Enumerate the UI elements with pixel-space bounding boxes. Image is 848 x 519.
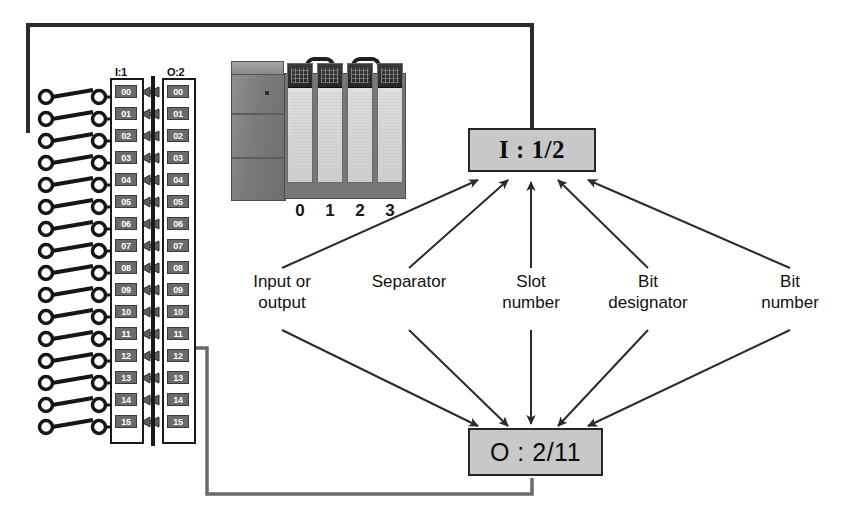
callout-arrows-to-output [282, 330, 790, 426]
plc-module-body [380, 91, 402, 181]
plc-module-led-array-icon [381, 68, 399, 83]
plc-module-led-array-icon [321, 68, 339, 83]
callout-bit-number: Bit number [740, 272, 840, 313]
plc-power-led-icon [265, 91, 269, 95]
input-terminal-02: 02 [115, 129, 137, 142]
plc-slot-number-2: 2 [347, 201, 373, 221]
callout-slot-number: Slot number [481, 272, 581, 313]
diagram-canvas: I:1 O:2 [0, 0, 848, 519]
input-terminal-00: 00 [115, 85, 137, 98]
output-terminal-01: 01 [167, 107, 189, 120]
plc-module-slot-2 [347, 63, 373, 183]
input-terminal-03: 03 [115, 151, 137, 164]
input-terminal-08: 08 [115, 261, 137, 274]
output-terminal-09: 09 [167, 283, 189, 296]
plc-slot-number-3: 3 [377, 201, 403, 221]
output-terminal-04: 04 [167, 173, 189, 186]
plc-slot-number-0: 0 [287, 201, 313, 221]
plc-module-slot-3 [377, 63, 403, 183]
input-terminal-06: 06 [115, 217, 137, 230]
output-strip-header: O:2 [165, 66, 186, 78]
output-terminal-15: 15 [167, 415, 189, 428]
input-address-text: I : 1/2 [499, 136, 565, 164]
output-terminal-02: 02 [167, 129, 189, 142]
plc-module-body [320, 91, 342, 181]
plc-module-body [350, 91, 372, 181]
input-terminal-07: 07 [115, 239, 137, 252]
output-terminal-03: 03 [167, 151, 189, 164]
plc-module-body [290, 91, 312, 181]
plc-power-supply-seam-upper [232, 113, 283, 115]
input-terminal-13: 13 [115, 371, 137, 384]
callout-input-or-output: Input or output [222, 272, 342, 313]
input-address-box: I : 1/2 [468, 128, 596, 172]
output-terminal-14: 14 [167, 393, 189, 406]
plc-module-slot-0 [287, 63, 313, 183]
callout-bit-designator: Bit designator [588, 272, 708, 313]
output-terminal-11: 11 [167, 327, 189, 340]
output-terminal-07: 07 [167, 239, 189, 252]
output-terminal-08: 08 [167, 261, 189, 274]
output-terminal-06: 06 [167, 217, 189, 230]
plc-slot-number-1: 1 [317, 201, 343, 221]
plc-chassis-photo: 0 1 2 3 [231, 61, 406, 199]
input-terminal-12: 12 [115, 349, 137, 362]
output-terminal-05: 05 [167, 195, 189, 208]
output-terminal-10: 10 [167, 305, 189, 318]
input-terminal-04: 04 [115, 173, 137, 186]
plc-module-slot-1 [317, 63, 343, 183]
output-terminal-12: 12 [167, 349, 189, 362]
input-terminal-05: 05 [115, 195, 137, 208]
input-terminal-11: 11 [115, 327, 137, 340]
plc-module-led-array-icon [291, 68, 309, 83]
input-terminal-15: 15 [115, 415, 137, 428]
input-terminal-10: 10 [115, 305, 137, 318]
output-address-box: O : 2/11 [468, 428, 603, 476]
plc-module-led-array-icon [351, 68, 369, 83]
input-terminal-14: 14 [115, 393, 137, 406]
output-terminal-00: 00 [167, 85, 189, 98]
plc-power-supply-seam-lower [232, 157, 283, 159]
output-address-text: O : 2/11 [490, 438, 581, 467]
input-terminal-09: 09 [115, 283, 137, 296]
input-terminal-01: 01 [115, 107, 137, 120]
input-strip-header: I:1 [113, 66, 129, 78]
plc-power-supply-top [231, 61, 284, 75]
callout-separator: Separator [349, 272, 469, 293]
strip-divider-rail [151, 76, 155, 446]
output-terminal-13: 13 [167, 371, 189, 384]
field-switch-group [40, 90, 113, 434]
plc-power-supply [231, 73, 286, 201]
